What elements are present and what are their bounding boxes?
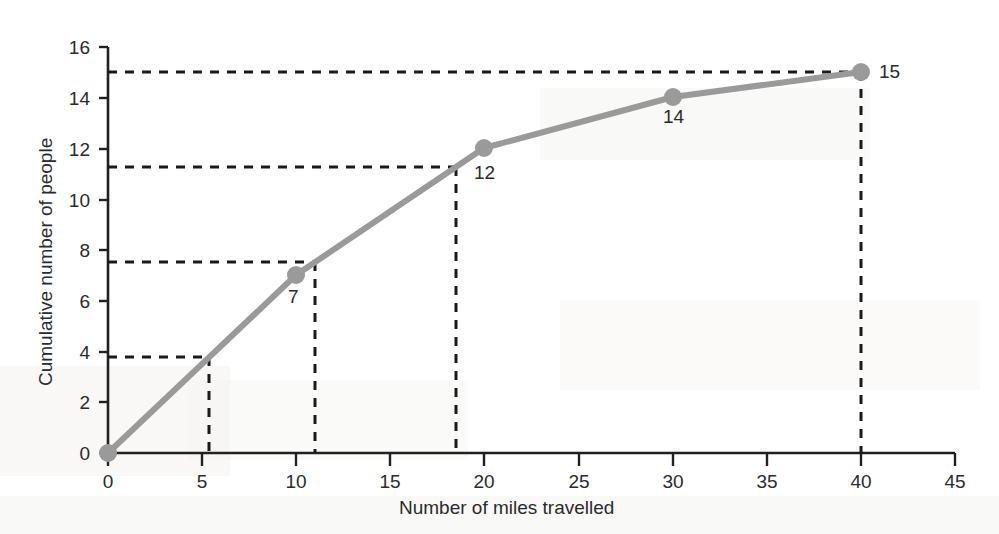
- x-tick-label-20: 20: [464, 472, 504, 491]
- y-tick-label-2: 2: [52, 393, 90, 412]
- data-point-4: [852, 63, 870, 81]
- data-point-3: [664, 88, 682, 106]
- axis-lines: [107, 47, 955, 453]
- x-tick-label-45: 45: [935, 472, 975, 491]
- x-tick-label-10: 10: [276, 472, 316, 491]
- y-tick-label-0: 0: [52, 444, 90, 463]
- x-tick-label-25: 25: [559, 472, 599, 491]
- y-axis-ticks: [99, 47, 108, 453]
- data-point-label-12: 12: [474, 163, 495, 182]
- x-tick-label-40: 40: [841, 472, 881, 491]
- x-tick-label-0: 0: [88, 472, 128, 491]
- x-tick-label-30: 30: [653, 472, 693, 491]
- data-point-0: [99, 444, 117, 462]
- x-axis-title: Number of miles travelled: [399, 498, 614, 517]
- y-tick-label-16: 16: [52, 38, 90, 57]
- y-axis-title: Cumulative number of people: [36, 138, 55, 386]
- data-point-label-15: 15: [879, 62, 900, 81]
- y-tick-label-14: 14: [52, 89, 90, 108]
- data-point-label-7: 7: [288, 287, 299, 306]
- y-tick-label-6: 6: [52, 292, 90, 311]
- y-tick-label-8: 8: [52, 241, 90, 260]
- chart-canvas: [0, 0, 999, 534]
- data-point-label-14: 14: [663, 107, 684, 126]
- x-tick-label-35: 35: [747, 472, 787, 491]
- x-axis-ticks: [108, 453, 955, 466]
- x-tick-label-5: 5: [182, 472, 222, 491]
- cumulative-frequency-curve: [108, 72, 861, 453]
- quartile-guide-lines: [108, 72, 861, 453]
- data-point-2: [475, 139, 493, 157]
- y-tick-label-10: 10: [52, 191, 90, 210]
- cumulative-frequency-chart: 16 14 12 10 8 6 4 2 0 0 5 10 15 20 25 30…: [0, 0, 999, 534]
- y-tick-label-4: 4: [52, 343, 90, 362]
- x-tick-label-15: 15: [370, 472, 410, 491]
- y-tick-label-12: 12: [52, 140, 90, 159]
- data-point-1: [287, 266, 305, 284]
